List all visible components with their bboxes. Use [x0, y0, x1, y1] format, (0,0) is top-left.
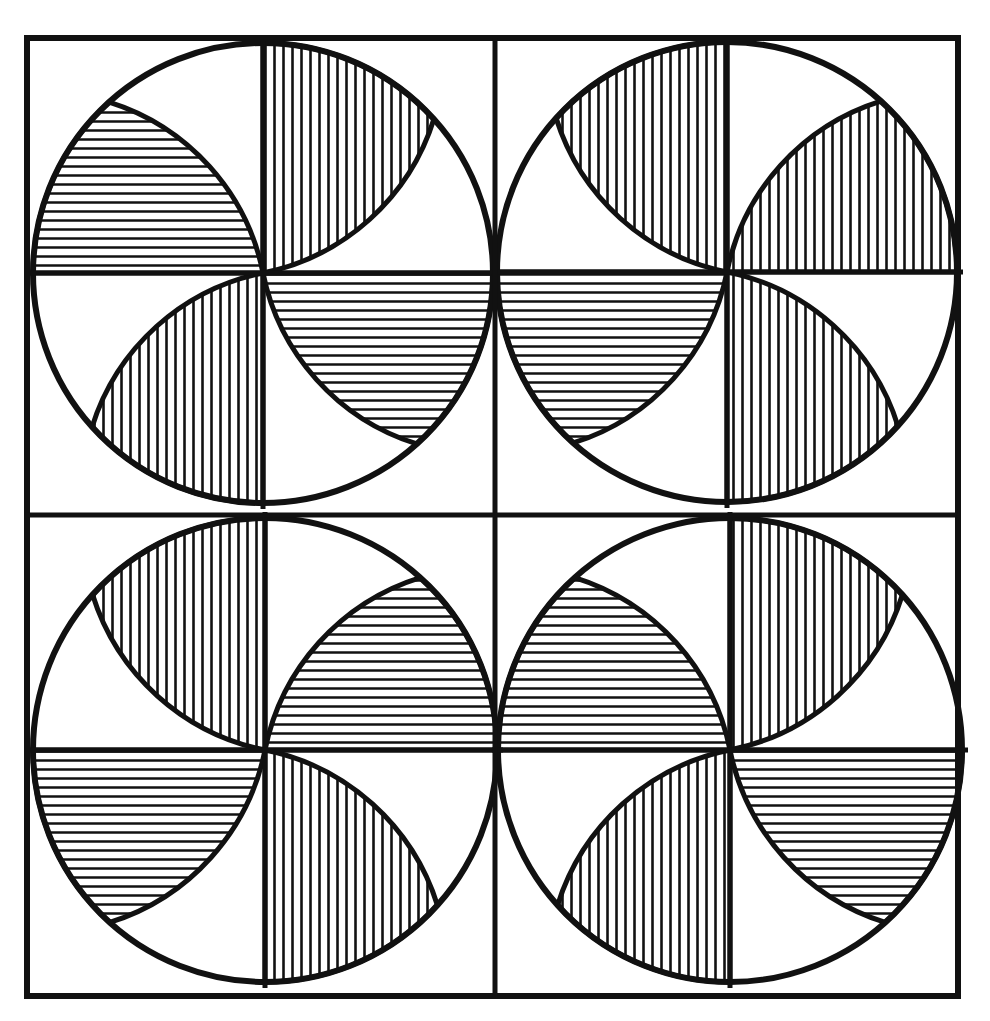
- pinwheel-quilt-artwork: [0, 0, 990, 1021]
